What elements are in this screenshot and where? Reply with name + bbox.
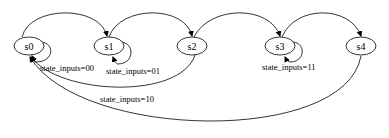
state-diagram: s0 s1 s2 s3 s4 state_inputs=00 state_inp… <box>0 0 389 138</box>
node-s2-label: s2 <box>188 41 197 52</box>
edge-s0-s1 <box>22 13 107 37</box>
node-s3: s3 <box>265 37 295 55</box>
node-s1-label: s1 <box>105 41 114 52</box>
edge-s1-s2 <box>109 13 192 37</box>
edge-label-s2-s0: state_inputs=10 <box>100 94 154 104</box>
edge-label-s1-loop: state_inputs=01 <box>106 66 160 76</box>
node-s2: s2 <box>177 37 207 55</box>
node-s4-label: s4 <box>357 41 366 52</box>
edge-label-s0-loop: state_inputs=00 <box>40 63 94 73</box>
node-s4: s4 <box>346 37 376 55</box>
edge-s2-s3 <box>194 13 280 37</box>
edge-label-s3-loop: state_inputs=11 <box>262 62 316 72</box>
node-s0: s0 <box>14 37 44 55</box>
node-s3-label: s3 <box>276 41 285 52</box>
edge-s3-s4 <box>282 13 361 37</box>
node-s0-label: s0 <box>25 41 34 52</box>
node-s1: s1 <box>94 37 124 55</box>
